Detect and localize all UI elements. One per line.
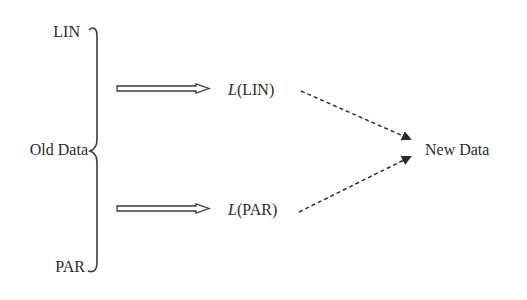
label-old-data: Old Data (30, 141, 88, 159)
dashed-arrow-icon-lin (301, 91, 410, 139)
paren-close: ) (272, 201, 277, 218)
curly-brace-icon (88, 28, 97, 272)
label-l-of-lin: L(LIN) (228, 81, 274, 99)
function-arg: LIN (242, 81, 269, 98)
label-par: PAR (55, 258, 85, 276)
double-arrow-icon-par (117, 204, 209, 213)
dashed-arrow-icon-par (299, 157, 410, 212)
double-arrow-icon-lin (117, 84, 209, 93)
function-symbol: L (228, 81, 237, 98)
label-l-of-par: L(PAR) (228, 201, 277, 219)
function-symbol: L (228, 201, 237, 218)
function-arg: PAR (242, 201, 272, 218)
label-lin: LIN (53, 23, 80, 41)
paren-close: ) (269, 81, 274, 98)
diagram-canvas: LIN Old Data PAR L(LIN) L(PAR) New Data (0, 0, 527, 300)
label-new-data: New Data (425, 141, 489, 159)
